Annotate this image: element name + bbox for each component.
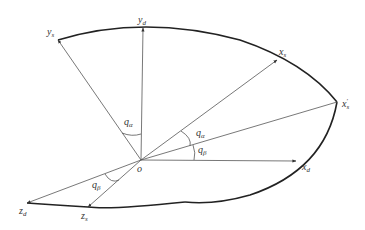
label-y-d: yd	[137, 14, 146, 27]
label-x-d: xd	[301, 161, 310, 174]
label-x-s-prime: xs'	[341, 97, 349, 111]
right-lower-arc	[185, 102, 337, 203]
arc-q-beta-lower	[105, 174, 119, 181]
axis-y-d	[141, 28, 143, 160]
origin-label: o	[137, 163, 142, 174]
upper-arc	[58, 27, 337, 102]
arc-q-beta-right	[193, 145, 195, 160]
label-z-d: zd	[18, 205, 27, 218]
axis-x-d	[141, 160, 296, 161]
label-z-s: zs	[80, 210, 88, 223]
axis-y-s	[58, 40, 141, 160]
arc-q-alpha-right	[181, 131, 190, 146]
arc-q-alpha-top	[122, 133, 141, 135]
axis-z-d	[27, 160, 141, 203]
label-q-alpha-right: qα	[196, 127, 205, 140]
axis-x-s-prime	[141, 102, 337, 160]
axis-x-s	[141, 60, 277, 160]
angle-arcs	[105, 131, 195, 181]
rotation-frame-diagram: o yd ys xs xs' xd zd zs qα qα qβ qβ	[0, 0, 365, 230]
bottom-arc	[27, 202, 185, 208]
label-q-beta-lower: qβ	[92, 179, 101, 192]
label-q-alpha-top: qα	[124, 116, 133, 129]
axis-lines	[27, 28, 337, 207]
label-y-s: ys	[46, 26, 54, 39]
label-q-beta-right: qβ	[198, 144, 207, 157]
